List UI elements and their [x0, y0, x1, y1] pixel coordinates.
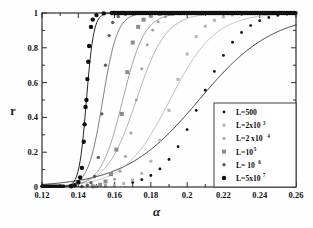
y-tick-label: 0.2	[27, 147, 38, 157]
legend-marker	[222, 150, 226, 154]
legend-label-exponent: 5	[254, 146, 257, 152]
legend-label: L=5x10	[236, 174, 261, 183]
y-tick-label: 0.6	[27, 78, 38, 88]
legend-label: L=500	[236, 108, 257, 117]
legend[interactable]: L=500L=2x103L=2 x104L=105L= 106L=5x107	[214, 103, 296, 187]
series-markers	[80, 11, 152, 188]
x-tick-label: 0.16	[107, 190, 122, 200]
legend-label: L=2 x10	[236, 134, 263, 143]
legend-marker	[223, 137, 226, 140]
legend-marker	[222, 163, 225, 166]
legend-marker	[222, 176, 226, 180]
x-axis-label: α	[0, 204, 313, 220]
x-tick-label: 0.22	[216, 190, 231, 200]
y-tick-label: 0.4	[27, 112, 38, 122]
x-tick-label: 0.2	[182, 190, 193, 200]
y-tick-label: 1	[34, 8, 38, 18]
legend-label-exponent: 7	[263, 172, 266, 178]
y-tick-label: 0	[34, 182, 38, 192]
y-axis-label: r	[2, 104, 24, 119]
x-tick-label: 0.14	[71, 190, 87, 200]
legend-marker	[223, 124, 226, 127]
x-tick-label: 0.26	[289, 190, 304, 200]
legend-label: L=2x10	[236, 121, 261, 130]
legend-label: L=10	[236, 148, 253, 157]
legend-label-exponent: 6	[258, 159, 261, 165]
legend-label-exponent: 4	[267, 133, 270, 139]
y-tick-label: 0.8	[27, 43, 38, 53]
plot-svg: 0.120.140.160.180.20.220.240.2600.20.40.…	[0, 0, 313, 228]
chart-figure: 0.120.140.160.180.20.220.240.2600.20.40.…	[0, 0, 313, 228]
legend-label-exponent: 3	[263, 120, 266, 126]
x-tick-label: 0.18	[143, 190, 158, 200]
x-tick-label: 0.24	[252, 190, 268, 200]
legend-marker	[223, 111, 226, 114]
legend-label: L= 10	[236, 161, 255, 170]
